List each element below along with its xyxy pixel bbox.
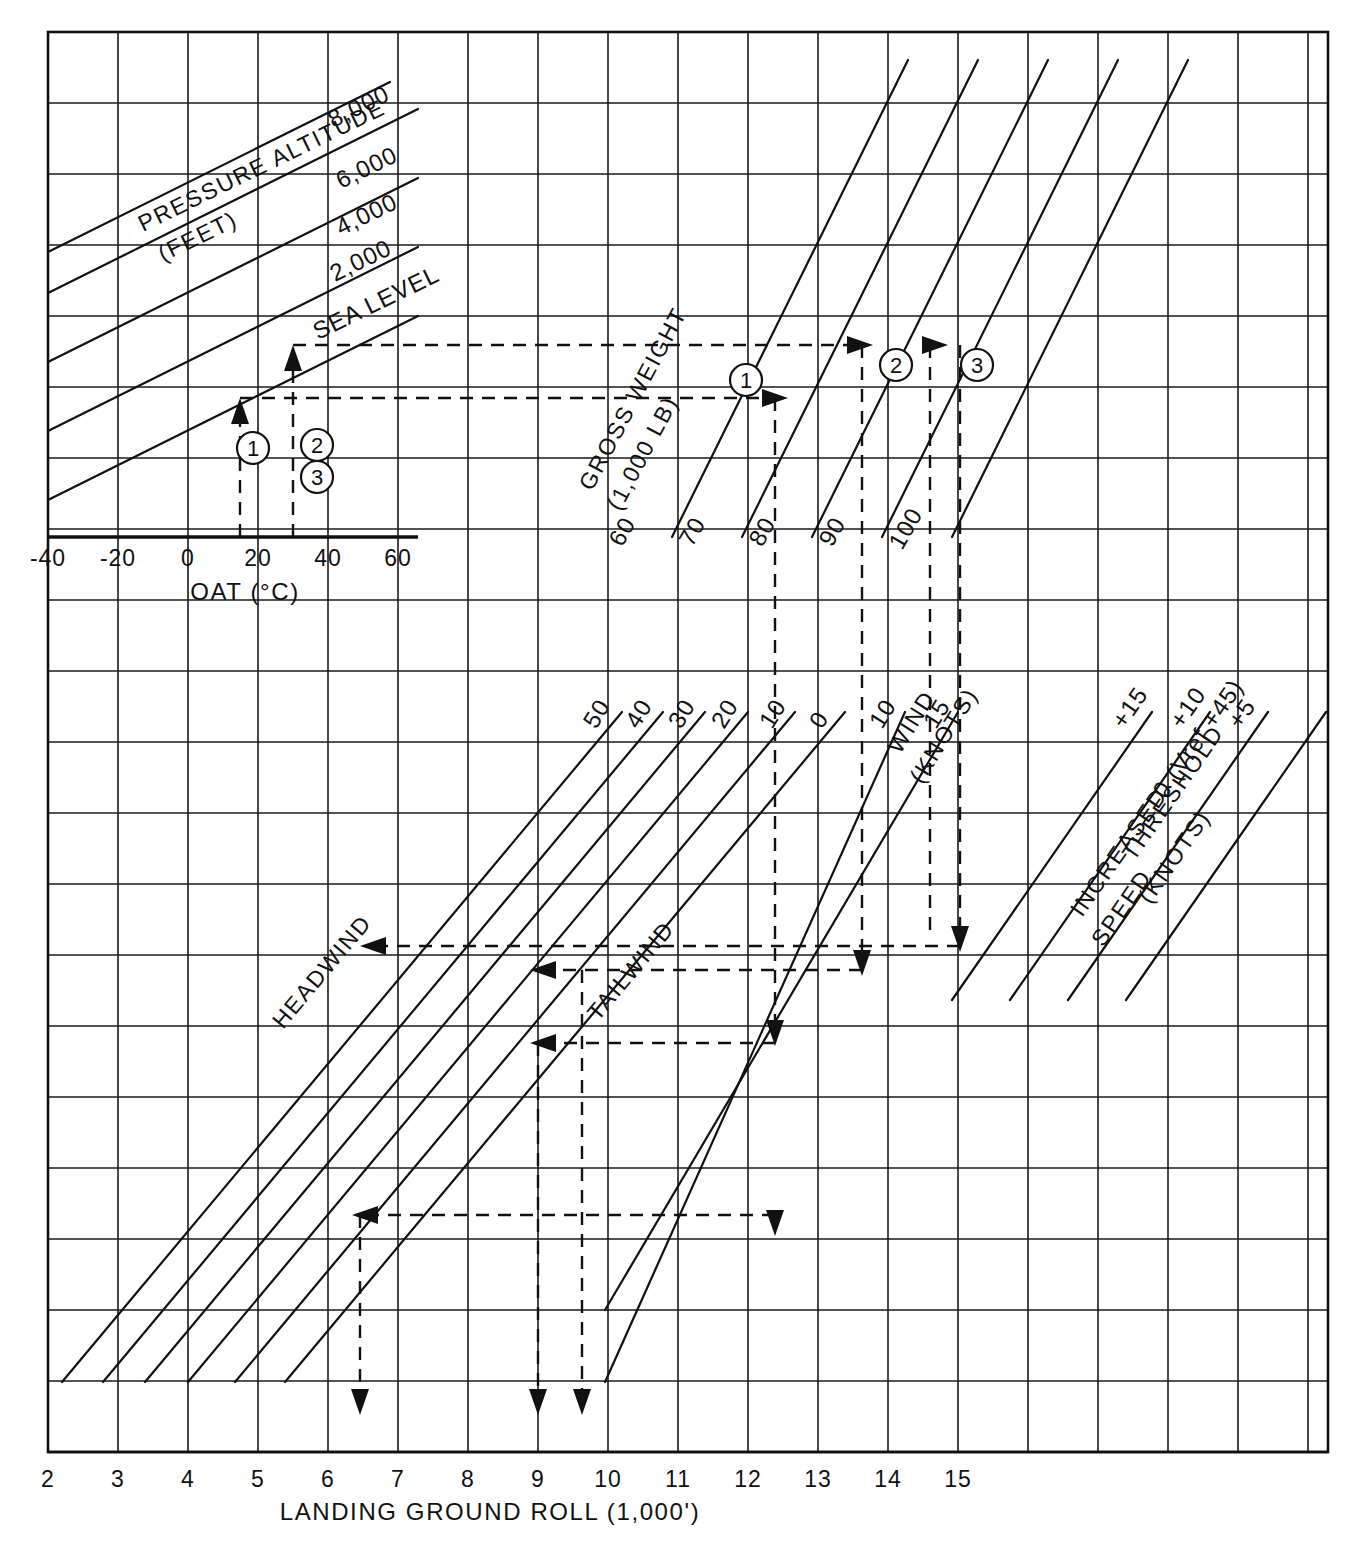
ground-roll-tick-7: 7: [391, 1466, 405, 1492]
path3-arrow-lower-left: [352, 1206, 378, 1224]
ground-roll-tick-8: 8: [461, 1466, 475, 1492]
step-badge-label: 1: [740, 368, 752, 393]
oat-tick-40: 40: [314, 545, 342, 571]
pa-curve-2000: [48, 247, 418, 431]
pa-label-6000: 6,000: [331, 141, 401, 194]
grid-lines: [48, 32, 1328, 1452]
panel-wind: 50 40 30 20 10 0 10 15 WIND (KNOTS) HEAD…: [62, 683, 983, 1382]
step-badge-1-oat: 1: [237, 432, 269, 464]
its-curve-0-vref45: [1126, 712, 1326, 1000]
wind-label-30: 30: [662, 694, 700, 733]
panel-increased-threshold-speed: +15 +10 +5 0 (Vref +45) INCREASED SPEED …: [952, 674, 1326, 1000]
path1-arrow-left: [530, 1034, 556, 1052]
landing-ground-roll-axis: 23456789101112131415 LANDING GROUND ROLL…: [41, 1452, 1328, 1525]
oat-tick-60: 60: [384, 545, 412, 571]
gw-curve-90: [882, 60, 1118, 537]
example-path-3: [351, 336, 969, 1415]
chart-canvas: 8,000 6,000 4,000 2,000 SEA LEVEL PRESSU…: [0, 0, 1353, 1556]
step-badge-2-oat: 2: [301, 429, 333, 461]
pa-label-4000: 4,000: [331, 188, 401, 241]
path3-arrow-lower-down: [766, 1210, 784, 1236]
step-badge-3-gw: 3: [961, 349, 993, 381]
wind-label-10-headwind: 10: [753, 694, 791, 733]
ground-roll-tick-10: 10: [594, 1466, 622, 1492]
step-badge-label: 2: [890, 353, 902, 378]
step-badge-label: 3: [311, 465, 323, 490]
oat-tick--40: -40: [30, 545, 66, 571]
its-label-plus15: +15: [1106, 682, 1153, 733]
pa-curve-sea-level: [48, 316, 418, 500]
gw-curve-70: [742, 60, 978, 537]
example-path-2: [284, 336, 873, 1415]
ground-roll-tick-2: 2: [41, 1466, 55, 1492]
path3-arrow-down-wind: [951, 926, 969, 952]
path2-arrow-down-wind: [853, 950, 871, 976]
example-path-1: [231, 389, 788, 1415]
oat-tick-20: 20: [244, 545, 272, 571]
step-badge-label: 3: [971, 353, 983, 378]
path2-arrow-right: [847, 336, 873, 354]
path1-arrow-result: [529, 1389, 547, 1415]
ground-roll-tick-14: 14: [874, 1466, 902, 1492]
path2-arrow-result: [573, 1389, 591, 1415]
headwind-label: HEADWIND: [267, 910, 377, 1034]
path2-arrow-left: [530, 961, 556, 979]
oat-tick-0: 0: [181, 545, 195, 571]
wind-curve-15-tailwind: [605, 712, 958, 1310]
step-badge-label: 2: [311, 433, 323, 458]
step-badge-label: 1: [247, 436, 259, 461]
ground-roll-tick-9: 9: [531, 1466, 545, 1492]
panel-oat-pressure-altitude: 8,000 6,000 4,000 2,000 SEA LEVEL PRESSU…: [30, 80, 444, 605]
ground-roll-tick-12: 12: [734, 1466, 762, 1492]
step-badge-1-gw: 1: [730, 364, 762, 396]
path3-arrow-result: [351, 1389, 369, 1415]
step-badge-3-oat: 3: [301, 461, 333, 493]
step-badge-2-gw: 2: [880, 349, 912, 381]
ground-roll-tick-11: 11: [665, 1466, 691, 1492]
ground-roll-tick-5: 5: [251, 1466, 265, 1492]
ground-roll-tick-4: 4: [181, 1466, 195, 1492]
ground-roll-tick-15: 15: [944, 1466, 972, 1492]
ground-roll-axis-title: LANDING GROUND ROLL (1,000'): [280, 1498, 701, 1525]
ground-roll-tick-6: 6: [321, 1466, 335, 1492]
gw-curve-100: [952, 60, 1188, 537]
path2-arrow-up: [284, 345, 302, 371]
ground-roll-tick-13: 13: [804, 1466, 832, 1492]
oat-tick--20: -20: [100, 545, 136, 571]
oat-axis-title: OAT (°C): [190, 578, 300, 605]
gw-curve-60: [672, 60, 908, 537]
ground-roll-tick-3: 3: [111, 1466, 125, 1492]
gw-label-100: 100: [883, 503, 928, 554]
landing-ground-roll-chart: 8,000 6,000 4,000 2,000 SEA LEVEL PRESSU…: [0, 0, 1353, 1556]
wind-label-20: 20: [705, 694, 743, 733]
panel-gross-weight: 60 70 80 90 100 GROSS WEIGHT (1,000 LB): [573, 60, 1188, 554]
path3-arrow-right: [922, 336, 948, 354]
pa-label-2000: 2,000: [325, 234, 395, 287]
